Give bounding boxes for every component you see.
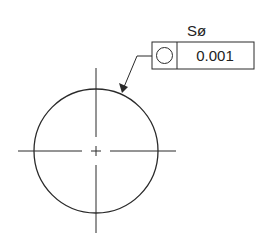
drawing-canvas: Sø 0.001 (0, 0, 264, 248)
spherical-diameter-label: Sø (187, 22, 206, 39)
tolerance-value: 0.001 (196, 47, 234, 64)
arrowhead-icon (119, 83, 128, 93)
feature-control-frame: 0.001 (152, 42, 254, 69)
leader-line (119, 56, 152, 93)
